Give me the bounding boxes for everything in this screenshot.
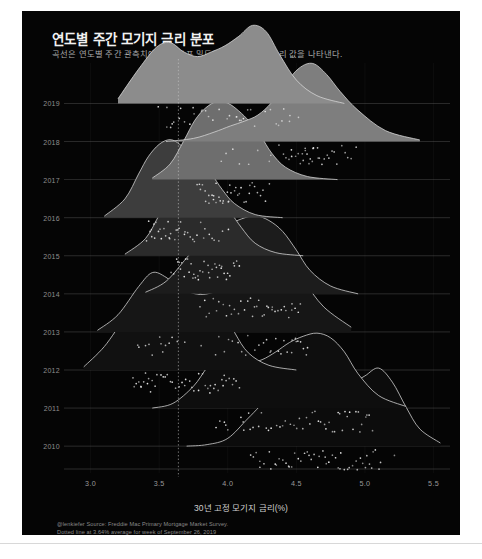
data-point: [242, 421, 244, 423]
data-point: [255, 452, 257, 454]
data-point: [348, 467, 350, 469]
data-point: [213, 239, 215, 241]
data-point: [213, 195, 215, 197]
data-point: [304, 150, 306, 152]
data-point: [153, 223, 155, 225]
y-axis-tick-2010: 2010: [30, 443, 60, 450]
data-point: [202, 184, 204, 186]
data-point: [270, 427, 272, 429]
data-point: [237, 342, 239, 344]
data-point: [247, 300, 249, 302]
data-point: [237, 194, 239, 196]
y-axis-tick-2017: 2017: [30, 176, 60, 183]
data-point: [232, 148, 234, 150]
data-point: [332, 454, 334, 456]
data-point: [209, 392, 211, 394]
data-point: [229, 275, 231, 277]
data-point: [192, 277, 194, 279]
data-point: [340, 452, 342, 454]
data-point: [359, 431, 361, 433]
data-point: [394, 455, 396, 457]
data-point: [268, 429, 270, 431]
x-axis-title: 30년 고정 모기지 금리(%): [22, 501, 460, 513]
data-point: [160, 343, 162, 345]
data-point: [171, 123, 173, 125]
data-point: [328, 157, 330, 159]
data-point: [146, 240, 148, 242]
data-point: [230, 192, 232, 194]
data-point: [365, 467, 367, 469]
data-point: [268, 160, 270, 162]
data-point: [189, 236, 191, 238]
data-point: [137, 344, 139, 346]
data-point: [254, 306, 256, 308]
data-point: [290, 423, 292, 425]
y-axis-tick-2013: 2013: [30, 328, 60, 335]
data-point: [347, 157, 349, 159]
data-point: [200, 221, 202, 223]
data-point: [225, 153, 227, 155]
data-point: [258, 426, 260, 428]
data-point: [219, 264, 221, 266]
data-point: [227, 272, 229, 274]
data-point: [221, 266, 223, 268]
data-point: [319, 157, 321, 159]
data-point: [374, 449, 376, 451]
data-point: [305, 354, 307, 356]
data-point: [282, 459, 284, 461]
data-point: [278, 124, 280, 126]
data-point: [208, 202, 210, 204]
data-point: [304, 452, 306, 454]
data-point: [140, 386, 142, 388]
data-point: [366, 455, 368, 457]
data-point: [285, 310, 287, 312]
data-point: [339, 413, 341, 415]
data-point: [306, 417, 308, 419]
y-axis-tick-2018: 2018: [30, 138, 60, 145]
data-point: [189, 123, 191, 125]
data-point: [325, 428, 327, 430]
data-point: [289, 120, 291, 122]
data-point: [158, 231, 160, 233]
data-point: [216, 310, 218, 312]
data-point: [289, 115, 291, 117]
data-point: [294, 452, 296, 454]
data-point: [199, 270, 201, 272]
data-point: [283, 340, 285, 342]
data-point: [205, 110, 207, 112]
data-point: [151, 229, 153, 231]
data-point: [283, 306, 285, 308]
data-point: [337, 467, 339, 469]
data-point: [166, 107, 168, 109]
data-point: [168, 342, 170, 344]
data-point: [222, 202, 224, 204]
data-point: [165, 345, 167, 347]
data-point: [306, 153, 308, 155]
data-point: [259, 460, 261, 462]
x-axis-tick-4.0: 4.0: [213, 479, 243, 488]
data-point: [133, 386, 135, 388]
data-point: [380, 462, 382, 464]
data-point: [175, 229, 177, 231]
data-point: [295, 155, 297, 157]
data-point: [240, 120, 242, 122]
data-point: [156, 374, 158, 376]
data-point: [219, 200, 221, 202]
data-point: [166, 374, 168, 376]
data-point: [288, 317, 290, 319]
data-point: [278, 350, 280, 352]
data-point: [317, 147, 319, 149]
data-point: [288, 466, 290, 468]
data-point: [219, 420, 221, 422]
data-point: [248, 163, 250, 165]
data-point: [220, 160, 222, 162]
data-point: [208, 195, 210, 197]
y-axis-tick-2015: 2015: [30, 252, 60, 259]
data-point: [313, 147, 315, 149]
data-point: [151, 236, 153, 238]
data-point: [318, 420, 320, 422]
data-point: [247, 335, 249, 337]
data-point: [205, 316, 207, 318]
data-point: [175, 387, 177, 389]
data-point: [265, 200, 267, 202]
